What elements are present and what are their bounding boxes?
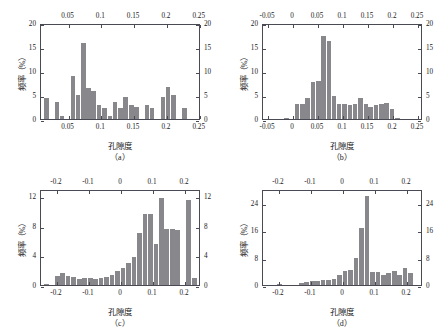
histogram-bar xyxy=(348,270,353,285)
x-tick-label-top: -0.05 xyxy=(260,12,275,20)
x-tick-top xyxy=(343,191,344,194)
x-tick-label-bottom: -0.05 xyxy=(260,123,275,131)
histogram-bar xyxy=(55,102,60,119)
x-tick-label-bottom: -0.2 xyxy=(272,289,283,297)
x-tick-label-bottom: -0.1 xyxy=(82,289,93,297)
histogram-bar xyxy=(123,97,128,119)
x-tick-top xyxy=(200,25,201,28)
x-tick-label-top: 0.15 xyxy=(361,12,374,20)
histogram-bar xyxy=(326,280,331,285)
x-tick-bottom xyxy=(153,282,154,285)
y-tick-left xyxy=(263,25,266,26)
y-tick-right xyxy=(196,25,199,26)
x-tick-bottom xyxy=(418,116,419,119)
histogram-bar xyxy=(182,108,187,119)
y-tick-label-right: 10 xyxy=(204,68,211,76)
histogram-bar xyxy=(305,98,310,119)
y-tick-label-left: 0 xyxy=(236,116,258,124)
histogram-bar xyxy=(99,278,104,285)
y-tick-left xyxy=(41,257,44,258)
histogram-bar xyxy=(129,105,134,119)
y-tick-right xyxy=(418,121,421,122)
histogram-bar xyxy=(354,258,359,285)
x-tick-label-bottom: 0.2 xyxy=(180,289,189,297)
histogram-bar xyxy=(148,214,153,285)
y-tick-left xyxy=(41,198,44,199)
y-tick-label-right: 4 xyxy=(204,252,208,260)
y-tick-left xyxy=(263,121,266,122)
x-tick-label-bottom: 0.15 xyxy=(127,123,140,131)
histogram-bar xyxy=(137,233,142,285)
histogram-bar xyxy=(154,244,159,285)
y-tick-label-left: 8 xyxy=(236,255,258,263)
histogram-bar xyxy=(284,118,289,119)
histogram-bar xyxy=(368,107,373,119)
y-tick-label-right: 20 xyxy=(204,20,211,28)
histogram-bar xyxy=(132,257,137,285)
x-tick-bottom xyxy=(407,282,408,285)
histogram-bar xyxy=(76,95,81,119)
x-tick-top xyxy=(343,25,344,28)
histogram-bar xyxy=(161,97,166,119)
y-tick-label-right: 24 xyxy=(426,200,433,208)
histogram-bar xyxy=(66,276,71,285)
y-tick-label-left: 20 xyxy=(236,20,258,28)
y-tick-right xyxy=(418,97,421,98)
y-tick-left xyxy=(263,260,266,261)
panel-a-caption: （a） xyxy=(40,151,200,162)
histogram-bar xyxy=(386,273,391,285)
y-tick-label-left: 16 xyxy=(236,227,258,235)
histogram-bar xyxy=(164,229,169,285)
x-tick-label-top: 0.2 xyxy=(161,12,170,20)
x-tick-label-bottom: 0.15 xyxy=(361,123,374,131)
histogram-bar xyxy=(186,200,191,285)
x-tick-label-top: -0.1 xyxy=(82,178,93,186)
panel-b-xlabel: 孔隙度 xyxy=(262,139,422,151)
histogram-bar xyxy=(304,282,309,285)
x-tick-top xyxy=(121,191,122,194)
y-tick-left xyxy=(263,73,266,74)
y-tick-label-left: 8 xyxy=(14,223,36,231)
x-tick-bottom xyxy=(185,282,186,285)
y-tick-right xyxy=(196,121,199,122)
x-tick-label-top: 0.15 xyxy=(127,12,140,20)
histogram-bar xyxy=(365,196,370,285)
panel-b-caption: （b） xyxy=(262,151,422,162)
y-tick-right xyxy=(196,228,199,229)
histogram-bar xyxy=(321,36,326,119)
y-tick-label-right: 10 xyxy=(426,68,433,76)
x-tick-label-top: -0.2 xyxy=(50,178,61,186)
histogram-bar xyxy=(299,283,304,285)
histogram-bar xyxy=(110,275,115,285)
x-tick-label-bottom: 0.1 xyxy=(338,123,347,131)
histogram-bar xyxy=(358,98,363,119)
histogram-bar xyxy=(384,103,389,119)
x-tick-label-bottom: 0.2 xyxy=(402,289,411,297)
y-tick-label-right: 0 xyxy=(204,282,208,290)
y-tick-label-left: 10 xyxy=(14,68,36,76)
y-tick-label-right: 15 xyxy=(426,44,433,52)
y-tick-left xyxy=(41,97,44,98)
y-tick-label-left: 12 xyxy=(14,193,36,201)
y-tick-right xyxy=(418,232,421,233)
x-tick-label-top: 0.2 xyxy=(402,178,411,186)
x-tick-top xyxy=(134,25,135,28)
histogram-bar xyxy=(115,271,120,285)
panel-d-bars xyxy=(263,191,421,285)
y-tick-label-left: 10 xyxy=(236,68,258,76)
y-tick-left xyxy=(41,228,44,229)
y-tick-right xyxy=(196,257,199,258)
x-tick-label-bottom: 0 xyxy=(340,289,344,297)
histogram-bar xyxy=(295,104,300,120)
panel-c-xlabel: 孔隙度 xyxy=(40,305,200,317)
x-tick-label-bottom: 0.1 xyxy=(148,289,157,297)
x-tick-top xyxy=(407,191,408,194)
y-tick-label-left: 15 xyxy=(14,44,36,52)
y-tick-left xyxy=(263,49,266,50)
histogram-bar xyxy=(171,95,176,119)
x-tick-bottom xyxy=(293,116,294,119)
panel-c: 频率（%） -0.2-0.100.10.2-0.2-0.100.10.20044… xyxy=(0,166,221,332)
panel-c-bars xyxy=(41,191,199,285)
x-tick-label-bottom: 0 xyxy=(290,123,294,131)
x-tick-bottom xyxy=(343,116,344,119)
